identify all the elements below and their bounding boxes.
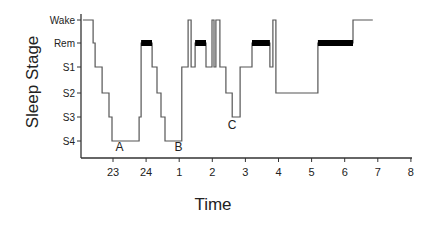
y-tick-label: S2 xyxy=(63,88,76,99)
annotations: ABC xyxy=(116,118,237,154)
annotation-a: A xyxy=(116,140,124,154)
y-tick-label: Wake xyxy=(50,15,76,26)
rem-bar xyxy=(141,40,152,46)
rem-bar xyxy=(318,40,353,46)
x-tick-label: 7 xyxy=(375,166,381,178)
y-tick-label: S4 xyxy=(63,136,76,147)
annotation-b: B xyxy=(175,140,183,154)
y-axis-ticks: WakeRemS1S2S3S4 xyxy=(50,15,81,147)
x-tick-label: 23 xyxy=(107,166,119,178)
y-tick-label: Rem xyxy=(54,38,75,49)
rem-bar xyxy=(252,40,270,46)
x-tick-label: 1 xyxy=(176,166,182,178)
y-axis-label: Sleep Stage xyxy=(23,36,42,129)
y-tick-label: S1 xyxy=(63,62,76,73)
hypnogram-chart: WakeRemS1S2S3S4 232412345678 ABC Sleep S… xyxy=(0,0,437,230)
x-axis-ticks: 232412345678 xyxy=(107,158,414,178)
x-tick-label: 24 xyxy=(140,166,152,178)
x-tick-label: 2 xyxy=(209,166,215,178)
x-tick-label: 6 xyxy=(342,166,348,178)
x-tick-label: 4 xyxy=(275,166,281,178)
rem-bars xyxy=(141,40,353,46)
annotation-c: C xyxy=(228,118,237,132)
y-tick-label: S3 xyxy=(63,112,76,123)
x-axis-label: Time xyxy=(194,195,231,214)
x-tick-label: 3 xyxy=(242,166,248,178)
x-tick-label: 8 xyxy=(408,166,414,178)
axes xyxy=(81,14,412,158)
x-tick-label: 5 xyxy=(309,166,315,178)
rem-bar xyxy=(195,40,206,46)
